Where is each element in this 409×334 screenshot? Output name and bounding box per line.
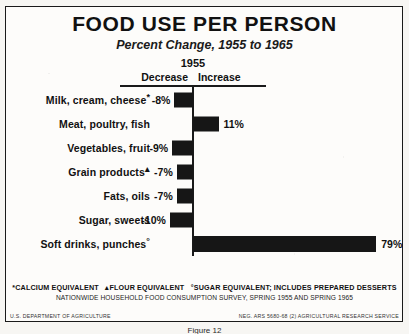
bar-row: Meat, poultry, fish11%	[0, 112, 409, 136]
bar	[177, 189, 193, 204]
bar-category-footnote-marker: °	[146, 236, 150, 246]
bar	[174, 93, 193, 108]
footnote-equivalents: *CALCIUM EQUIVALENT ▴FLOUR EQUIVALENT °S…	[0, 283, 409, 292]
bar-value-label: -10%	[141, 214, 166, 226]
bar-category-text: Vegetables, fruit	[67, 142, 150, 154]
figure-caption: Figure 12	[0, 326, 409, 334]
credit-department: U.S. DEPARTMENT OF AGRICULTURE	[10, 313, 111, 319]
bar	[170, 213, 193, 228]
axis-increase-label: Increase	[193, 71, 268, 83]
bar	[172, 141, 193, 156]
axis-direction-headers: Decrease Increase	[118, 71, 268, 83]
chart-figure: FOOD USE PER PERSON Percent Change, 1955…	[0, 0, 409, 334]
bar-category-label: Meat, poultry, fish	[59, 118, 150, 130]
bar-category-label: Grain products▴	[68, 166, 150, 178]
bar-category-text: Milk, cream, cheese	[46, 94, 147, 106]
source-line: NATIONWIDE HOUSEHOLD FOOD CONSUMPTION SU…	[0, 294, 409, 301]
credit-negative-number: NEG. ARS 5680-68 (2) AGRICULTURAL RESEAR…	[239, 313, 399, 319]
footnote-calcium-text: CALCIUM EQUIVALENT	[15, 283, 99, 292]
axis-year-label: 1955	[138, 57, 248, 69]
bar-category-text: Sugar, sweets	[79, 214, 150, 226]
bar	[193, 236, 376, 252]
bar-category-footnote-marker: ▴	[145, 164, 150, 174]
axis-decrease-label: Decrease	[118, 71, 193, 83]
bar-category-text: Soft drinks, punches	[40, 238, 146, 250]
bar-category-text: Fats, oils	[103, 190, 150, 202]
bar-category-label: Vegetables, fruit	[67, 142, 150, 154]
bar-row: Sugar, sweets-10%	[0, 208, 409, 232]
bar-category-label: Fats, oils	[103, 190, 150, 202]
bar-rows: Milk, cream, cheese*-8%Meat, poultry, fi…	[0, 88, 409, 256]
bar-row: Fats, oils-7%	[0, 184, 409, 208]
bar-value-label: 11%	[224, 118, 244, 130]
bar-category-footnote-marker: *	[146, 92, 150, 102]
bar-row: Grain products▴-7%	[0, 160, 409, 184]
bar-value-label: -7%	[154, 190, 173, 202]
bar-category-text: Meat, poultry, fish	[59, 118, 150, 130]
chart-subtitle: Percent Change, 1955 to 1965	[0, 38, 409, 52]
bar-row: Vegetables, fruit-9%	[0, 136, 409, 160]
bar-category-label: Milk, cream, cheese*	[46, 94, 150, 106]
footnote-sugar-text: SUGAR EQUIVALENT; INCLUDES PREPARED DESS…	[194, 283, 397, 292]
bar-value-label: -9%	[149, 142, 168, 154]
bar	[177, 165, 193, 180]
bar-row: Soft drinks, punches°79%	[0, 232, 409, 256]
chart-title: FOOD USE PER PERSON	[0, 12, 409, 36]
bar-category-text: Grain products	[68, 166, 145, 178]
bar-category-label: Soft drinks, punches°	[40, 238, 150, 250]
bar-category-label: Sugar, sweets	[79, 214, 150, 226]
bar-value-label: 79%	[381, 238, 402, 250]
credit-line: U.S. DEPARTMENT OF AGRICULTURE NEG. ARS …	[10, 313, 399, 319]
footnote-flour-text: FLOUR EQUIVALENT	[109, 283, 184, 292]
bar-value-label: -8%	[152, 94, 171, 106]
bar-row: Milk, cream, cheese*-8%	[0, 88, 409, 112]
bar	[193, 117, 219, 132]
bar-value-label: -7%	[154, 166, 173, 178]
